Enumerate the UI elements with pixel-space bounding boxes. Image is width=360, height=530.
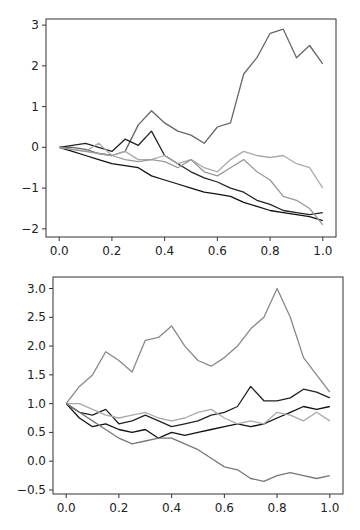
y-tick-label: 3.0: [27, 282, 46, 296]
chart-figure: 0.00.20.40.60.81.03210−1−2 0.00.20.40.60…: [0, 0, 360, 530]
x-tick-label: 1.0: [320, 501, 339, 515]
y-tick-label: −1: [21, 181, 39, 195]
series-line-path-1: [59, 29, 323, 155]
x-tick-label: 0.2: [109, 501, 128, 515]
axes-frame: [46, 19, 336, 237]
y-tick-label: 1.5: [27, 368, 46, 382]
series-line-path-3: [59, 147, 323, 220]
x-tick-label: 0.8: [261, 244, 280, 258]
series-line-path-2: [66, 386, 330, 426]
series-line-path-4: [59, 143, 323, 188]
x-tick-label: 0.6: [215, 501, 234, 515]
y-tick-label: 2.0: [27, 339, 46, 353]
y-tick-label: −0.5: [17, 483, 46, 497]
y-tick-label: 1: [31, 100, 39, 114]
x-tick-label: 1.0: [313, 244, 332, 258]
x-tick-label: 0.6: [208, 244, 227, 258]
x-tick-label: 0.0: [50, 244, 69, 258]
x-tick-label: 0.4: [155, 244, 174, 258]
bottom-chart: 0.00.20.40.60.81.03.02.52.01.51.00.50.0−…: [17, 277, 343, 515]
y-tick-label: 1.0: [27, 397, 46, 411]
axes-frame: [53, 277, 343, 494]
x-tick-label: 0.8: [268, 501, 287, 515]
y-tick-label: 3: [31, 18, 39, 32]
y-tick-label: 0.0: [27, 454, 46, 468]
x-tick-label: 0.4: [162, 501, 181, 515]
series-line-path-1: [66, 289, 330, 404]
y-tick-label: 2: [31, 59, 39, 73]
top-chart: 0.00.20.40.60.81.03210−1−2: [21, 18, 336, 258]
x-tick-label: 0.2: [102, 244, 121, 258]
x-tick-label: 0.0: [57, 501, 76, 515]
y-tick-label: 0: [31, 140, 39, 154]
y-tick-label: −2: [21, 222, 39, 236]
y-tick-label: 0.5: [27, 425, 46, 439]
y-tick-label: 2.5: [27, 310, 46, 324]
